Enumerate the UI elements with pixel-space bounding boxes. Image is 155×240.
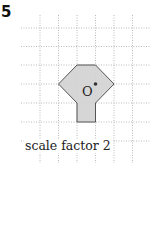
- center-of-enlargement-point: [94, 82, 98, 86]
- scale-factor-caption: scale factor 2: [24, 140, 112, 153]
- center-label: O: [82, 85, 93, 98]
